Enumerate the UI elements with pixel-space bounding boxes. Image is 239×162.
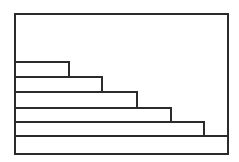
bar-3[interactable] [15, 92, 137, 108]
bar-4[interactable] [15, 108, 171, 122]
bar-2[interactable] [15, 77, 102, 92]
staircase-bar-chart-figure [0, 0, 239, 162]
bar-5[interactable] [15, 122, 204, 136]
bar-1[interactable] [15, 62, 69, 77]
bar-6[interactable] [15, 136, 228, 154]
chart-canvas [0, 0, 239, 162]
